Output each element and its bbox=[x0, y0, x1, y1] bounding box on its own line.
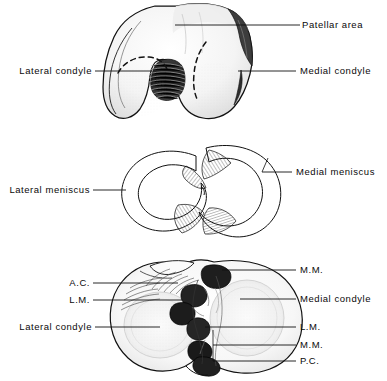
label-patellar-area: Patellar area bbox=[302, 19, 363, 30]
panel-menisci bbox=[93, 145, 292, 236]
label-lm-right: L.M. bbox=[300, 321, 321, 332]
label-lateral-condyle-tibia: Lateral condyle bbox=[6, 321, 92, 332]
panel-femoral-condyles bbox=[95, 4, 300, 119]
label-mm-top: M.M. bbox=[300, 264, 323, 275]
label-medial-condyle-femur: Medial condyle bbox=[300, 65, 371, 76]
label-mm-bottom: M.M. bbox=[300, 339, 323, 350]
panel-tibial-plateau bbox=[93, 260, 302, 376]
label-pc: P.C. bbox=[300, 355, 319, 366]
label-ac: A.C. bbox=[40, 277, 90, 288]
label-lateral-condyle-femur: Lateral condyle bbox=[6, 65, 92, 76]
label-lateral-meniscus: Lateral meniscus bbox=[2, 184, 90, 195]
anatomy-figure: Patellar area Lateral condyle Medial con… bbox=[0, 0, 387, 381]
label-lm-left: L.M. bbox=[40, 294, 90, 305]
label-medial-condyle-tibia: Medial condyle bbox=[300, 293, 371, 304]
label-medial-meniscus: Medial meniscus bbox=[296, 166, 375, 177]
